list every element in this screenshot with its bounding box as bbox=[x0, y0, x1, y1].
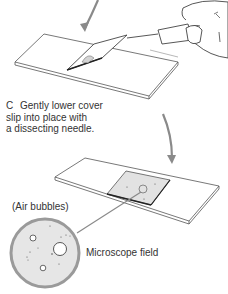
microscope-field-label: Microscope field bbox=[86, 247, 158, 258]
step-letter: C bbox=[6, 100, 20, 112]
air-bubble-small bbox=[40, 265, 46, 271]
arrow-down-top bbox=[80, 0, 98, 32]
dissecting-needle-hand bbox=[127, 1, 228, 58]
caption-line-2: slip into place with bbox=[6, 112, 103, 124]
caption-line-1: Gently lower cover bbox=[20, 100, 103, 111]
air-bubbles-label: (Air bubbles) bbox=[12, 201, 69, 212]
microscope-field bbox=[11, 219, 79, 287]
arrow-down-middle bbox=[163, 114, 176, 164]
air-bubble-large bbox=[54, 243, 67, 256]
caption-line-3: a dissecting needle. bbox=[6, 123, 103, 135]
step-c-caption: CGently lower cover slip into place with… bbox=[6, 100, 103, 135]
air-bubble-small bbox=[30, 235, 36, 241]
